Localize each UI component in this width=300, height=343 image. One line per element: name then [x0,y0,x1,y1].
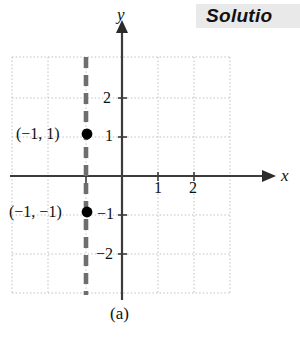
y-axis [116,20,128,300]
x-axis [10,170,276,182]
x-tick-label-2: 2 [189,180,197,196]
y-axis-label: y [117,6,125,23]
y-tick-label-1: 1 [105,128,113,144]
data-point-lower [82,207,93,218]
data-point-upper [82,129,93,140]
y-tick-label-neg-1: −1 [97,206,114,222]
x-tick-label-1: 1 [154,180,162,196]
point-label-lower: (−1, −1) [9,204,62,220]
figure-caption: (a) [110,305,129,322]
coordinate-plane-svg [0,0,300,343]
y-tick-label-2: 2 [103,90,111,106]
x-axis-arrowhead [262,170,276,182]
coordinate-plane [0,0,300,343]
point-label-upper: (−1, 1) [16,126,60,142]
figure-root: Solutio [0,0,300,343]
y-tick-label-neg-2: −2 [96,246,113,262]
x-axis-label: x [281,167,289,184]
